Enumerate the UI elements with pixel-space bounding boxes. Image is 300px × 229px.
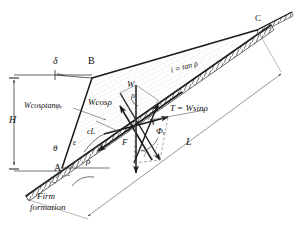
label-delta: δ	[53, 56, 58, 66]
label-normal-n: N	[149, 118, 155, 127]
label-cohesion-cl: cL	[87, 128, 95, 136]
delta-reference-line	[14, 70, 92, 80]
label-weight-w: W	[127, 80, 135, 89]
label-epsilon: ε	[73, 139, 76, 147]
label-firm-formation-line2: formation	[30, 203, 66, 212]
label-wcosrhotanphi-main: Wcosρtanφ	[24, 101, 60, 110]
label-phi-r: Φr	[156, 127, 165, 136]
label-point-a: A	[54, 163, 61, 173]
label-rho-force: ρ	[131, 92, 135, 100]
label-wcosrhotanphi-sub: r	[60, 104, 62, 110]
label-point-b: B	[88, 56, 95, 66]
height-dimension	[9, 78, 62, 171]
label-firm-formation-line1: Firm	[37, 192, 55, 201]
label-length-l: L	[186, 137, 192, 147]
label-phi-r-main: Φ	[156, 126, 163, 136]
arc-rho-base	[72, 177, 94, 186]
figure-canvas: δ B C A H L Wcosρtanφr Wcosρ W ρ N F Φr …	[0, 0, 300, 229]
label-phi-r-sub: r	[163, 130, 165, 136]
label-rho-base: ρ	[86, 157, 90, 166]
label-height-h: H	[9, 115, 16, 125]
label-point-c: C	[255, 14, 261, 23]
label-wcosrho: Wcosρ	[88, 98, 112, 107]
label-tangential-t: T = Wsinρ	[170, 104, 208, 113]
firm-formation-plane	[26, 25, 274, 201]
label-force-f: F	[122, 138, 128, 147]
ground-surface-right	[257, 12, 293, 34]
label-theta: θ	[53, 144, 57, 153]
label-wcosrhotanphi: Wcosρtanφr	[24, 102, 62, 110]
